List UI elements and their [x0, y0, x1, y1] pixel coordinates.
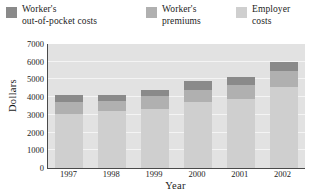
x-axis-tick-label: 2000 [173, 170, 221, 179]
bar-segment [55, 114, 83, 168]
bar-segment [141, 109, 169, 168]
gridline [48, 114, 305, 115]
bar-segment [227, 85, 255, 99]
bar-segment [184, 90, 212, 102]
gridline [48, 96, 305, 97]
bar-2000 [184, 81, 212, 168]
gridline [48, 61, 305, 62]
x-axis-tick-label: 1998 [87, 170, 135, 179]
legend-item-label: Worker's premiums [162, 4, 201, 27]
bar-1997 [55, 95, 83, 168]
y-axis-tick-label: 3000 [4, 111, 44, 120]
y-axis-tick-label: 0 [4, 164, 44, 173]
bar-segment [98, 101, 126, 112]
bar-segment [270, 62, 298, 71]
gridline [48, 132, 305, 133]
legend-item-employer-costs: Employer costs [236, 4, 290, 27]
legend-swatch-icon [236, 7, 247, 18]
legend-item-workers-premiums: Worker's premiums [146, 4, 201, 27]
bar-segment [141, 96, 169, 108]
y-axis-tick-label: 1000 [4, 146, 44, 155]
bar-segment [184, 102, 212, 168]
plot-frame [47, 44, 305, 169]
bar-segment [184, 81, 212, 90]
y-axis-tick-label: 4000 [4, 93, 44, 102]
x-axis-tick-label: 2002 [259, 170, 307, 179]
bar-segment [98, 111, 126, 168]
chart-legend: Worker's out-of-pocket costs Worker's pr… [0, 0, 316, 34]
x-axis-tick-label: 2001 [216, 170, 264, 179]
y-axis-tick-labels: 01000200030004000500060007000 [0, 0, 44, 191]
gridline [48, 78, 305, 79]
bar-segment [270, 71, 298, 88]
bar-segment [270, 87, 298, 168]
bar-segment [227, 99, 255, 168]
bar-segment [55, 102, 83, 114]
chart-figure: Worker's out-of-pocket costs Worker's pr… [0, 0, 316, 191]
y-axis-tick-label: 5000 [4, 75, 44, 84]
bar-2002 [270, 62, 298, 168]
bar-1999 [141, 90, 169, 168]
gridline [48, 149, 305, 150]
y-axis-tick-label: 2000 [4, 129, 44, 138]
bar-2001 [227, 77, 255, 168]
legend-swatch-icon [146, 7, 157, 18]
plot-area [48, 44, 305, 168]
bar-segment [227, 77, 255, 85]
x-axis-title: Year [47, 180, 304, 191]
x-axis-tick-label: 1997 [44, 170, 92, 179]
legend-item-label: Employer costs [252, 4, 290, 27]
y-axis-tick-label: 7000 [4, 40, 44, 49]
bar-1998 [98, 95, 126, 168]
y-axis-tick-label: 6000 [4, 58, 44, 67]
x-axis-tick-label: 1999 [130, 170, 178, 179]
